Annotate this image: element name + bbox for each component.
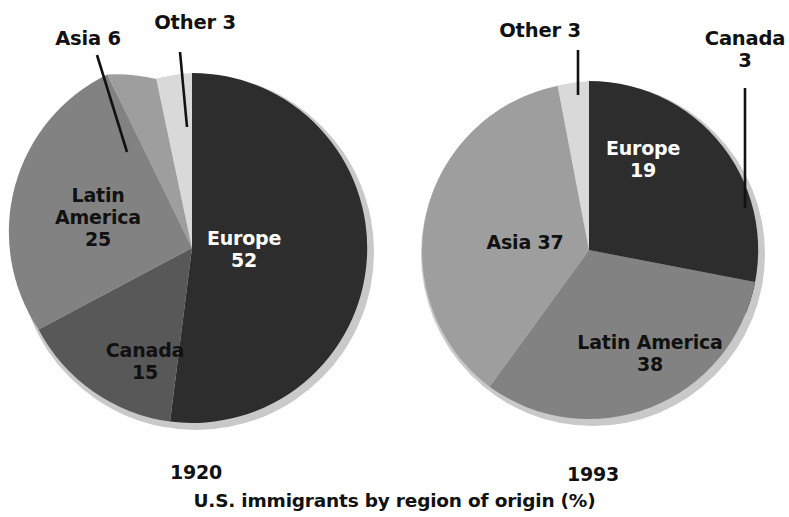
right-label-europe: Europe — [606, 138, 680, 159]
right-label-other: Other 3 — [499, 20, 581, 42]
right-pie-1993 — [422, 81, 758, 419]
left-label-latin-america-value: 25 — [85, 229, 111, 250]
chart-figure: Asia 6 Other 3 Latin America 25 Canada 1… — [0, 0, 789, 517]
left-label-other: Other 3 — [154, 12, 236, 34]
right-label-europe-value: 19 — [630, 160, 656, 181]
chart-caption: U.S. immigrants by region of origin (%) — [0, 490, 789, 511]
right-label-latin-america-value: 38 — [637, 354, 663, 375]
right-label-canada-value: 3 — [738, 50, 751, 72]
left-label-latin-america-line1: Latin — [71, 185, 124, 206]
left-year-label: 1920 — [170, 462, 222, 483]
right-label-latin-america: Latin America — [577, 332, 722, 353]
right-year-label: 1993 — [567, 464, 619, 485]
left-label-canada-value: 15 — [132, 362, 158, 383]
left-label-europe: Europe — [207, 228, 281, 249]
left-label-asia: Asia 6 — [55, 28, 121, 50]
right-label-asia: Asia 37 — [486, 232, 563, 253]
left-label-latin-america-line2: America — [55, 207, 141, 228]
left-label-canada: Canada — [106, 340, 184, 361]
pie-charts-canvas — [0, 0, 789, 517]
right-label-canada: Canada — [705, 28, 785, 50]
left-label-europe-value: 52 — [231, 250, 257, 271]
